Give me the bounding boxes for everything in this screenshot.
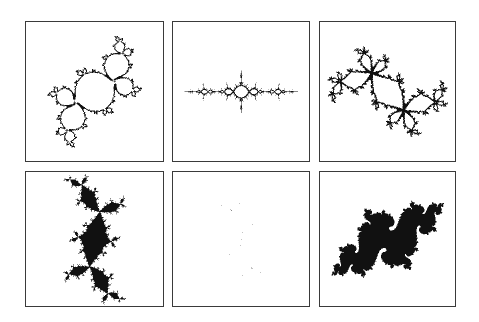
julia-panel-top-middle	[172, 21, 310, 162]
fractal-canvas	[173, 172, 309, 306]
fractal-canvas	[26, 22, 163, 161]
julia-set-figure	[0, 0, 479, 322]
fractal-canvas	[173, 22, 309, 161]
fractal-canvas	[26, 172, 163, 306]
julia-panel-bottom-right	[319, 171, 456, 307]
julia-panel-top-right	[319, 21, 456, 162]
julia-panel-bottom-left	[25, 171, 164, 307]
julia-panel-top-left	[25, 21, 164, 162]
fractal-canvas	[320, 22, 455, 161]
fractal-canvas	[320, 172, 455, 306]
julia-panel-bottom-middle	[172, 171, 310, 307]
